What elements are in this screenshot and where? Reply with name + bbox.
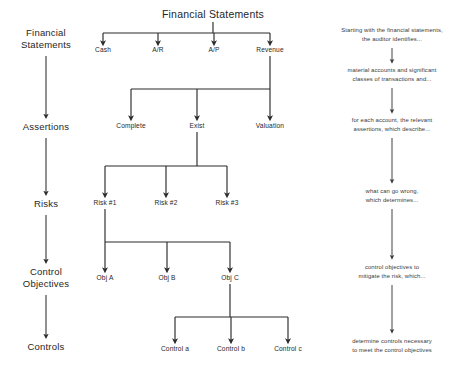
level-objectives: Obj A Obj B Obj C [97,274,239,282]
level-controls: Control a Control b Control c [161,345,302,352]
level-objectives-edges [105,209,230,271]
node-exist: Exist [189,122,204,129]
narrative-step-2-line1: material accounts and significant [348,67,437,73]
node-control-b: Control b [217,345,245,352]
node-risk-3: Risk #3 [215,199,238,206]
narrative-step-5-line2: mitigate the risk, which... [358,273,425,279]
diagram-canvas: Financial Statements Assertions Risks Co… [0,0,456,372]
stage-item-controls: Controls [28,341,65,352]
narrative-step-6-line1: determine controls necessary [352,338,432,344]
stage-item-risks: Risks [34,198,58,209]
level-risks-edges [105,132,227,196]
node-obj-a: Obj A [97,274,114,282]
node-complete: Complete [116,122,146,130]
node-obj-c: Obj C [221,274,239,282]
node-control-c: Control c [274,345,302,352]
flowchart-diagram: Financial Statements Assertions Risks Co… [0,0,456,372]
tree-root-group: Financial Statements [103,8,270,44]
level-assertions: Complete Exist Valuation [116,122,284,130]
node-risk-1: Risk #1 [93,199,116,206]
node-valuation: Valuation [256,122,285,129]
narrative-step-2-line2: classes of transactions and... [353,76,432,82]
narrative-step-3-line2: assertions, which describe... [354,126,431,132]
stage-item-financial-statements-line1: Financial [26,27,66,38]
narrative-step-4-line2: which determines... [365,197,419,203]
node-cash: Cash [95,46,111,53]
stage-item-control-objectives-line1: Control [30,266,62,277]
node-revenue: Revenue [256,46,284,53]
narrative-step-5-line1: control objectives to [365,264,420,270]
node-risk-2: Risk #2 [154,199,177,206]
node-obj-b: Obj B [158,274,176,282]
stage-item-financial-statements-line2: Statements [21,39,71,50]
node-control-a: Control a [161,345,189,352]
stage-item-assertions: Assertions [23,121,69,132]
narrative-step-1-line2: the auditor identifies... [362,36,422,42]
level-risks: Risk #1 Risk #2 Risk #3 [93,199,238,206]
narrative-step-1-line1: Starting with the financial statements, [341,27,443,33]
narrative-column: Starting with the financial statements, … [341,27,443,353]
node-financial-statements: Financial Statements [162,8,264,20]
level-controls-edges [175,284,288,342]
node-ap: A/P [208,46,220,53]
narrative-step-3-line1: for each account, the relevant [352,117,433,123]
stage-column: Financial Statements Assertions Risks Co… [21,27,71,352]
node-ar: A/R [152,46,164,53]
stage-item-control-objectives-line2: Objectives [23,278,69,289]
level-assertions-edges [131,56,270,119]
narrative-step-6-line2: to meet the control objectives [352,347,432,353]
level-accounts: Cash A/R A/P Revenue [95,46,284,53]
narrative-step-4-line1: what can go wrong, [365,188,419,194]
